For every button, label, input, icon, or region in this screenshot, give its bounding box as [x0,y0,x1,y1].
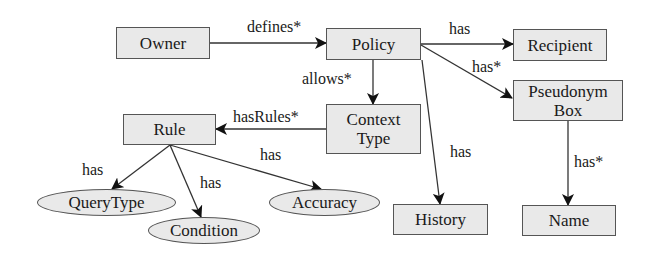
edge-label-hasrules: hasRules* [233,108,299,126]
edge-rule-condition [170,145,201,217]
node-pseudonym-box: Pseudonym Box [513,80,623,121]
node-context-type-label-line1: Context [347,110,401,129]
node-accuracy-label: Accuracy [292,193,357,213]
node-policy-label: Policy [352,35,395,54]
node-owner-label: Owner [140,34,186,53]
policy-ontology-diagram: Owner Policy Recipient Pseudonym Box Con… [0,0,652,256]
node-owner: Owner [116,27,210,59]
node-recipient: Recipient [513,29,607,61]
node-context-type-label-line2: Type [357,129,391,148]
edge-label-pseudonym-name: has* [574,153,603,171]
node-querytype-label: QueryType [68,193,144,213]
node-recipient-label: Recipient [527,36,592,55]
node-history: History [393,204,488,235]
node-name: Name [522,205,616,236]
node-history-label: History [415,210,466,229]
node-rule: Rule [123,114,216,145]
edge-label-policy-history: has [450,143,471,161]
edge-rule-querytype [112,145,170,189]
edge-rule-accuracy [170,145,321,189]
node-policy: Policy [326,28,421,60]
node-rule-label: Rule [153,120,185,139]
node-accuracy: Accuracy [269,189,380,216]
edge-label-defines: defines* [247,18,301,36]
node-querytype: QueryType [37,189,176,216]
edge-label-policy-recipient: has [449,20,470,38]
node-condition: Condition [148,217,260,244]
edge-policy-history [422,60,440,204]
edge-label-allows: allows* [302,70,352,88]
node-condition-label: Condition [170,221,238,241]
edge-label-rule-condition: has [200,174,221,192]
node-name-label: Name [549,211,590,230]
node-pseudonym-box-label-line1: Pseudonym [528,82,607,101]
node-pseudonym-box-label-line2: Box [554,101,582,120]
edge-label-rule-querytype: has [82,161,103,179]
edge-label-policy-pseudonym: has* [472,58,501,76]
edge-label-rule-accuracy: has [260,146,281,164]
node-context-type: Context Type [326,104,421,154]
